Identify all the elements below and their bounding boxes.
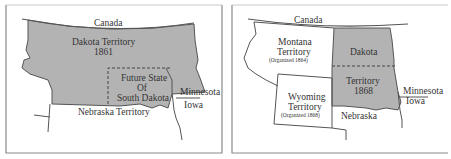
nebraska-west-border (332, 128, 346, 140)
map-panel-1868: Canada Montana Territory (Organized 1864… (226, 0, 451, 159)
label-iowa: Iowa (406, 97, 425, 107)
label-nebraska: Nebraska (341, 112, 377, 122)
nebraska-border (34, 104, 50, 132)
map-panel-1861: Canada Dakota Territory 1861 Future Stat… (0, 0, 226, 159)
label-nebraska-territory: Nebraska Territory (78, 108, 150, 118)
label-dakota: Dakota (350, 48, 377, 58)
label-dakota-year: 1861 (94, 48, 113, 58)
dakota-territory-region (22, 20, 205, 108)
label-montana-organized: (Organized 1864) (269, 58, 308, 64)
label-wyoming-organized: (Organized 1868) (281, 113, 320, 119)
label-year-1868: 1868 (354, 87, 373, 97)
map-1868-graphic (226, 0, 451, 159)
label-minnesota: Minnesota (180, 88, 220, 98)
canada-border (248, 19, 408, 26)
label-canada: Canada (94, 19, 123, 29)
label-south-dakota: South Dakota (117, 94, 169, 104)
label-iowa: Iowa (184, 101, 203, 111)
dakota-1868-region (332, 28, 401, 110)
label-canada: Canada (294, 16, 323, 26)
